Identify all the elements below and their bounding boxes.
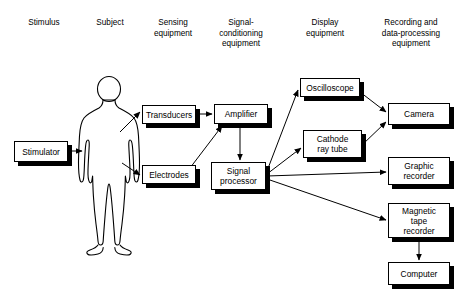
edge-signal-processor-to-oscilloscope [267, 90, 298, 171]
node-camera[interactable]: Camera [388, 103, 450, 125]
node-transducers[interactable]: Transducers [142, 105, 196, 124]
node-oscilloscope[interactable]: Oscilloscope [300, 78, 360, 97]
node-graphic-recorder[interactable]: Graphic recorder [388, 157, 450, 185]
node-amplifier[interactable]: Amplifier [214, 104, 268, 124]
edge-signal-processor-to-graphic-recorder [267, 172, 386, 176]
column-header: Display equipment [292, 18, 358, 39]
node-cathode-ray-tube[interactable]: Cathode ray tube [303, 130, 362, 158]
edge-signal-processor-to-magnetic-tape-recorder [267, 179, 386, 220]
node-stimulator[interactable]: Stimulator [14, 141, 68, 162]
edge-cathode-ray-tube-to-camera [362, 122, 386, 145]
column-header: Sensing equipment [140, 18, 206, 39]
edge-subject-figure-to-electrodes [122, 163, 140, 175]
edge-signal-processor-to-cathode-ray-tube [267, 148, 301, 174]
column-header: Recording and data-processing equipment [368, 18, 454, 50]
node-magnetic-tape-recorder[interactable]: Magnetic tape recorder [388, 203, 450, 238]
diagram-canvas: StimulusSubjectSensing equipmentSignal- … [0, 0, 460, 308]
node-electrodes[interactable]: Electrodes [142, 165, 196, 184]
edge-oscilloscope-to-camera [360, 92, 386, 112]
node-computer[interactable]: Computer [388, 262, 450, 285]
column-header: Signal- conditioning equipment [206, 18, 276, 50]
edge-subject-figure-to-transducers [120, 112, 140, 132]
human-body-outline [79, 77, 140, 255]
node-signal-processor[interactable]: Signal processor [211, 162, 266, 190]
column-header: Stimulus [14, 18, 74, 29]
column-header: Subject [80, 18, 140, 29]
